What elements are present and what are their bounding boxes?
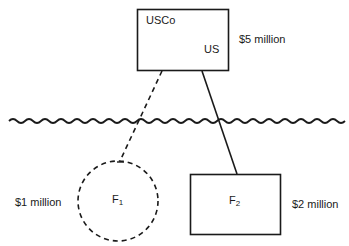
parent-jurisdiction-label: US xyxy=(204,44,219,55)
f2-value-label: $2 million xyxy=(292,199,338,210)
border-wave-line xyxy=(9,119,345,123)
ownership-diagram: USCo US $5 million F1 $1 million F2 $2 m… xyxy=(0,0,349,246)
f1-connector-dashed xyxy=(120,71,162,161)
f1-name-label: F1 xyxy=(112,194,123,207)
f1-subscript: 1 xyxy=(119,198,123,207)
f2-subscript: 2 xyxy=(236,199,240,208)
f2-name-label: F2 xyxy=(229,195,240,208)
parent-name-label: USCo xyxy=(146,15,175,26)
f2-name: F xyxy=(229,194,236,206)
f1-value-label: $1 million xyxy=(15,197,61,208)
f1-name: F xyxy=(112,193,119,205)
parent-value-label: $5 million xyxy=(239,34,285,45)
